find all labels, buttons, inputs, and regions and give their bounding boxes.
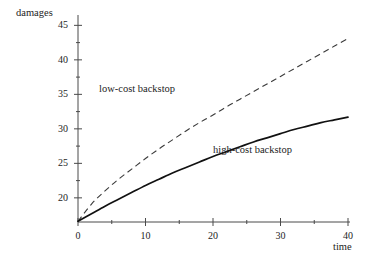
y-tick-label: 40 <box>46 55 68 65</box>
high-cost-backstop-curve <box>78 117 348 221</box>
high-cost-backstop-label: high-cost backstop <box>213 145 292 156</box>
x-tick-label: 30 <box>269 231 293 241</box>
y-tick-label: 20 <box>46 193 68 203</box>
y-tick-label: 30 <box>46 124 68 134</box>
x-tick-label: 20 <box>201 231 225 241</box>
y-axis-title: damages <box>16 8 53 19</box>
low-cost-backstop-label: low-cost backstop <box>99 84 175 95</box>
x-tick-label: 0 <box>66 231 90 241</box>
axes <box>78 15 350 222</box>
y-tick-label: 45 <box>46 20 68 30</box>
x-tick-label: 40 <box>336 231 360 241</box>
x-axis-title: time <box>333 242 352 253</box>
y-tick-label: 25 <box>46 158 68 168</box>
x-tick-label: 10 <box>134 231 158 241</box>
low-cost-backstop-curve <box>78 38 348 221</box>
damages-vs-time-chart: damages time low-cost backstop high-cost… <box>0 0 370 260</box>
y-tick-label: 35 <box>46 89 68 99</box>
